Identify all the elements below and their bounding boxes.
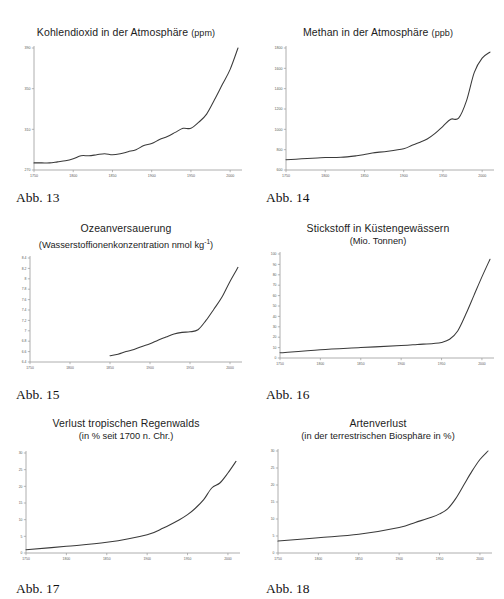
figure-15-caption: Abb. 15 <box>16 387 60 403</box>
svg-text:5: 5 <box>273 534 275 538</box>
svg-text:270: 270 <box>25 168 31 172</box>
figure-18-plot: 051015202530175018001850190019502000 <box>252 443 504 571</box>
figure-13-unit: (ppm) <box>191 28 215 38</box>
figure-17-title: Verlust tropischen Regenwalds <box>10 417 242 430</box>
svg-text:30: 30 <box>273 325 277 329</box>
figure-17-caption: Abb. 17 <box>16 581 60 597</box>
svg-text:600: 600 <box>277 168 283 172</box>
figure-14-titles: Methan in der Atmosphäre (ppb) <box>252 0 504 40</box>
figure-15-title: Ozeanversauerung <box>10 222 242 235</box>
figure-13-caption: Abb. 13 <box>16 190 60 206</box>
svg-text:1000: 1000 <box>275 128 283 132</box>
figure-16-titles: Stickstoff in Küstengewässern (Mio. Tonn… <box>252 210 504 248</box>
svg-text:6.6: 6.6 <box>22 350 27 354</box>
svg-text:1800: 1800 <box>321 174 329 178</box>
svg-text:15: 15 <box>19 501 23 505</box>
svg-text:2000: 2000 <box>478 174 486 178</box>
svg-text:8.4: 8.4 <box>22 256 27 260</box>
figure-16-chart: 0102030405060708090100175018001850190019… <box>252 248 504 376</box>
svg-text:2000: 2000 <box>476 557 484 561</box>
svg-text:1850: 1850 <box>108 174 116 178</box>
figure-16-subtitle: (Mio. Tonnen) <box>262 235 494 248</box>
svg-text:1800: 1800 <box>315 557 323 561</box>
figure-15-superscript: -1 <box>204 238 210 245</box>
svg-text:10: 10 <box>273 346 277 350</box>
svg-text:7: 7 <box>25 329 27 333</box>
svg-text:1400: 1400 <box>275 87 283 91</box>
figure-16-plot: 0102030405060708090100175018001850190019… <box>252 248 504 376</box>
figure-sheet: Kohlendioxid in der Atmosphäre (ppm) 270… <box>0 0 504 599</box>
svg-text:5: 5 <box>21 535 23 539</box>
svg-text:80: 80 <box>273 273 277 277</box>
svg-text:1600: 1600 <box>275 67 283 71</box>
svg-text:60: 60 <box>273 294 277 298</box>
svg-text:1850: 1850 <box>103 557 111 561</box>
svg-text:1750: 1750 <box>276 362 284 366</box>
figure-abb-16: Stickstoff in Küstengewässern (Mio. Tonn… <box>252 210 504 405</box>
svg-text:390: 390 <box>25 46 31 50</box>
svg-text:1200: 1200 <box>275 107 283 111</box>
figure-15-subtitle: (Wasserstoffionenkonzentration nmol kg-1… <box>10 235 242 252</box>
figure-13-title: Kohlendioxid in der Atmosphäre (ppm) <box>10 26 242 40</box>
svg-text:1950: 1950 <box>187 174 195 178</box>
svg-text:1950: 1950 <box>184 557 192 561</box>
svg-text:1900: 1900 <box>146 366 154 370</box>
svg-text:1950: 1950 <box>439 174 447 178</box>
figure-13-titles: Kohlendioxid in der Atmosphäre (ppm) <box>0 0 252 40</box>
figure-13-plot: 270310350390175018001850190019502000 <box>0 40 252 190</box>
svg-text:1800: 1800 <box>317 362 325 366</box>
figure-15-chart: 6.46.66.877.27.47.67.888.28.417501800185… <box>0 252 252 380</box>
svg-text:1950: 1950 <box>438 362 446 366</box>
svg-text:1800: 1800 <box>275 46 283 50</box>
svg-text:2000: 2000 <box>478 362 486 366</box>
svg-text:30: 30 <box>19 451 23 455</box>
svg-text:25: 25 <box>19 468 23 472</box>
figure-abb-13: Kohlendioxid in der Atmosphäre (ppm) 270… <box>0 0 252 210</box>
figure-15-subtitle-text: (Wasserstoffionenkonzentration nmol kg <box>39 240 204 250</box>
figure-17-plot: 051015202530175018001850190019502000 <box>0 443 252 571</box>
figure-14-unit: (ppb) <box>432 28 454 38</box>
figure-17-chart: 051015202530175018001850190019502000 <box>0 443 252 571</box>
svg-text:0: 0 <box>275 356 277 360</box>
svg-text:2000: 2000 <box>224 557 232 561</box>
figure-16-caption: Abb. 16 <box>266 387 310 403</box>
svg-text:1750: 1750 <box>274 557 282 561</box>
svg-text:350: 350 <box>25 87 31 91</box>
svg-text:1900: 1900 <box>148 174 156 178</box>
svg-text:70: 70 <box>273 283 277 287</box>
figure-abb-14: Methan in der Atmosphäre (ppb) 600800100… <box>252 0 504 210</box>
svg-text:1850: 1850 <box>106 366 114 370</box>
svg-text:0: 0 <box>273 551 275 555</box>
svg-text:2000: 2000 <box>226 174 234 178</box>
svg-text:1800: 1800 <box>69 174 77 178</box>
figure-17-titles: Verlust tropischen Regenwalds (in % seit… <box>0 405 252 443</box>
figure-14-title: Methan in der Atmosphäre (ppb) <box>262 26 494 40</box>
svg-text:1900: 1900 <box>395 557 403 561</box>
svg-text:1850: 1850 <box>357 362 365 366</box>
svg-text:40: 40 <box>273 315 277 319</box>
figure-18-chart: 051015202530175018001850190019502000 <box>252 443 504 571</box>
figure-abb-15: Ozeanversauerung (Wasserstoffionenkonzen… <box>0 210 252 405</box>
figure-15-plot: 6.46.66.877.27.47.67.888.28.417501800185… <box>0 252 252 380</box>
figure-15-titles: Ozeanversauerung (Wasserstoffionenkonzen… <box>0 210 252 252</box>
svg-text:1950: 1950 <box>186 366 194 370</box>
svg-text:1800: 1800 <box>63 557 71 561</box>
figure-13-title-text: Kohlendioxid in der Atmosphäre <box>37 26 188 38</box>
svg-text:800: 800 <box>277 148 283 152</box>
svg-text:7.6: 7.6 <box>22 298 27 302</box>
svg-text:1750: 1750 <box>26 366 34 370</box>
svg-text:310: 310 <box>25 128 31 132</box>
figure-18-caption: Abb. 18 <box>266 581 310 597</box>
svg-text:1850: 1850 <box>355 557 363 561</box>
svg-text:0: 0 <box>21 551 23 555</box>
svg-text:1750: 1750 <box>22 557 30 561</box>
figure-18-title: Artenverlust <box>262 417 494 430</box>
figure-14-title-text: Methan in der Atmosphäre <box>303 26 429 38</box>
svg-text:1800: 1800 <box>66 366 74 370</box>
figure-14-chart: 6008001000120014001600180017501800185019… <box>252 40 504 190</box>
svg-text:90: 90 <box>273 263 277 267</box>
figure-18-subtitle: (in der terrestrischen Biosphäre in %) <box>262 430 494 443</box>
svg-text:7.4: 7.4 <box>22 308 27 312</box>
svg-text:6.8: 6.8 <box>22 340 27 344</box>
svg-text:100: 100 <box>271 252 277 256</box>
